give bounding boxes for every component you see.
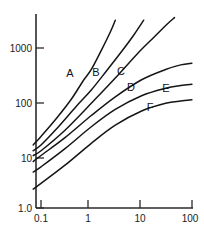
curve-label-a: A bbox=[66, 67, 74, 79]
y-tick-label-1000: 1000 bbox=[10, 43, 33, 54]
curve-a bbox=[33, 20, 115, 145]
x-tick-label-10: 10 bbox=[134, 213, 146, 224]
y-tick-label-100: 100 bbox=[15, 98, 32, 109]
y-tick-label-1: 1.0 bbox=[18, 203, 32, 214]
x-tick-label-100: 100 bbox=[182, 213, 199, 224]
x-axis-tick-labels: 0.1 1 10 100 bbox=[34, 213, 199, 224]
curve-label-c: C bbox=[117, 65, 125, 77]
chart-container: 1000 100 10 1.0 0.1 1 10 100 ABCDEF bbox=[0, 0, 204, 235]
data-curves bbox=[33, 18, 192, 190]
log-log-chart: 1000 100 10 1.0 0.1 1 10 100 ABCDEF bbox=[0, 0, 204, 235]
y-axis-tick-labels: 1000 100 10 1.0 bbox=[10, 43, 33, 214]
x-tick-label-0.1: 0.1 bbox=[34, 213, 48, 224]
x-axis-ticks bbox=[41, 200, 192, 208]
curve-d bbox=[33, 63, 192, 161]
y-tick-label-10: 10 bbox=[21, 153, 33, 164]
curve-label-e: E bbox=[162, 82, 169, 94]
x-tick-label-1: 1 bbox=[85, 213, 91, 224]
curve-c bbox=[33, 18, 174, 156]
curve-label-b: B bbox=[92, 66, 99, 78]
axis-lines bbox=[36, 14, 193, 208]
curve-label-d: D bbox=[127, 81, 135, 93]
curve-label-f: F bbox=[147, 101, 154, 113]
